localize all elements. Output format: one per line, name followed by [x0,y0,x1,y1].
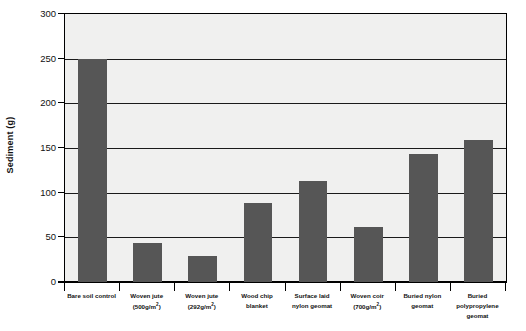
bar-slot [341,14,396,282]
x-axis-category-label: Buriedpolypropylenegeomat [450,291,505,331]
x-axis-category-label-line: geomat [396,301,449,311]
x-axis-category-label-line: Woven coir [341,291,394,301]
y-axis-tick-label: 200 [18,97,56,108]
x-axis-category-label-line: Wood chip [230,291,283,301]
x-axis-category-label: Bare soil control [64,291,119,331]
x-axis-category-label: Wood chipblanket [229,291,284,331]
x-axis-tick-mark [64,283,65,291]
x-axis-category-label-line: nylon geomat [286,301,339,311]
bar[interactable] [299,181,328,282]
y-axis-tick-label: 150 [18,142,56,153]
y-axis-tick-label: 100 [18,186,56,197]
y-axis-tick-mark [58,102,65,103]
bar-slot [451,14,506,282]
x-axis-category-label: Woven jute(500g/m2) [119,291,174,331]
x-axis-tick-mark [229,283,230,291]
x-axis-tick-marks [64,283,505,291]
bar-slot [396,14,451,282]
y-axis-tick-label: 0 [18,276,56,287]
x-axis-category-label-line: polypropylene [451,301,504,311]
x-axis-category-label-line: (700g/m2) [341,301,394,312]
bar-slot [230,14,285,282]
y-axis-title-label: Sediment (g) [5,117,15,174]
x-axis-category-label-line: Woven jute [175,291,228,301]
y-axis-tick-mark [58,281,65,282]
x-axis-category-label-line: (500g/m2) [120,301,173,312]
x-axis-tick-mark [340,283,341,291]
x-axis-category-label-line: blanket [230,301,283,311]
x-axis-tick-mark [119,283,120,291]
x-axis-tick-mark [285,283,286,291]
x-axis-category-label-line: Buried [451,291,504,301]
bar-slot [175,14,230,282]
y-axis-tick-label: 50 [18,231,56,242]
y-axis-title: Sediment (g) [0,0,20,290]
bar[interactable] [188,256,217,282]
x-axis-category-label-line: geomat [451,311,504,321]
bar[interactable] [133,243,162,282]
x-axis-category-label: Surface laidnylon geomat [285,291,340,331]
y-axis-tick-mark [58,236,65,237]
y-axis-tick-mark [58,192,65,193]
x-axis-category-label-line: Woven jute [120,291,173,301]
x-axis-tick-mark [174,283,175,291]
bar[interactable] [464,140,493,282]
y-axis-tick-mark [58,13,65,14]
bar[interactable] [354,227,383,282]
x-axis-category-label-line: (292g/m2) [175,301,228,312]
bars-container [65,14,506,282]
plot-area [64,13,507,283]
x-axis-category-label: Woven jute(292g/m2) [174,291,229,331]
y-axis-tick-labels: 050100150200250300 [18,0,56,300]
superscript-two: 2 [211,302,214,307]
y-axis-tick-mark [58,58,65,59]
superscript-two: 2 [377,302,380,307]
y-axis-tick-label: 250 [18,52,56,63]
bar-slot [286,14,341,282]
x-axis-tick-mark [505,283,506,291]
x-axis-category-label-line: Buried nylon [396,291,449,301]
bar-slot [65,14,120,282]
bar-chart-figure: Sediment (g) 050100150200250300 Bare soi… [0,0,526,331]
x-axis-category-label-line: Surface laid [286,291,339,301]
y-axis-tick-mark [58,147,65,148]
x-axis-tick-mark [450,283,451,291]
x-axis-tick-mark [395,283,396,291]
x-axis-category-label: Buried nylongeomat [395,291,450,331]
bar-slot [120,14,175,282]
x-axis-category-label-line: Bare soil control [65,291,118,301]
x-axis-category-label: Woven coir(700g/m2) [340,291,395,331]
bar[interactable] [244,203,273,282]
superscript-two: 2 [156,302,159,307]
x-axis-category-labels: Bare soil controlWoven jute(500g/m2)Wove… [64,291,505,331]
bar[interactable] [409,154,438,282]
bar[interactable] [78,59,107,282]
y-axis-tick-label: 300 [18,8,56,19]
